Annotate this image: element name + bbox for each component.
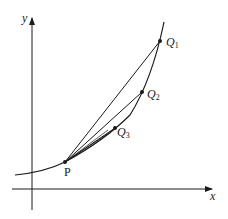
q1-subscript: 1 (175, 41, 179, 50)
secant-p-q1 (65, 41, 160, 162)
diagram-graphics (0, 0, 228, 219)
point-q2 (140, 90, 144, 94)
q3-letter: Q (117, 125, 126, 139)
secant-p-q2 (65, 92, 142, 162)
q1-letter: Q (166, 35, 175, 49)
q3-subscript: 3 (126, 131, 130, 140)
point-q1 (158, 39, 162, 43)
point-q3-label: Q3 (117, 126, 130, 140)
tangent-hint (65, 131, 112, 162)
q2-letter: Q (147, 87, 156, 101)
x-axis-label: x (210, 190, 215, 202)
point-q1-label: Q1 (166, 36, 179, 50)
curve (15, 22, 164, 175)
point-p (63, 160, 67, 164)
secant-diagram: y x P Q1 Q2 Q3 (0, 0, 228, 219)
point-q2-label: Q2 (147, 88, 160, 102)
q2-subscript: 2 (156, 93, 160, 102)
point-p-label: P (64, 166, 71, 178)
y-axis-label: y (22, 12, 27, 24)
